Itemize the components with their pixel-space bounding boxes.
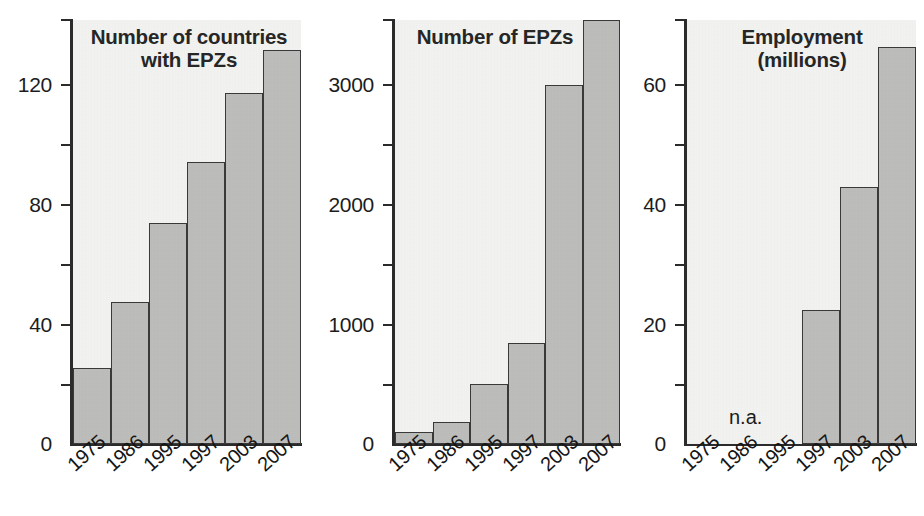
ytick-label-120: 120 — [6, 73, 52, 97]
ytick-label-2000: 2000 — [306, 193, 374, 217]
ytick-label-0: 0 — [6, 432, 52, 456]
bar-1995 — [149, 223, 187, 444]
panel-title: Number of EPZs — [400, 26, 590, 49]
ytick-label-0: 0 — [620, 432, 666, 456]
ytick-label-40: 40 — [620, 193, 666, 217]
bar-1986 — [111, 302, 149, 444]
bar-2007 — [583, 20, 621, 444]
bar-1997 — [508, 343, 546, 444]
panel-epzs: 3000 2000 1000 0 Number of EPZs 1975 198… — [310, 0, 620, 516]
bar-2007 — [878, 47, 916, 444]
plot-area — [73, 20, 301, 444]
panel-title: Employment (millions) — [692, 26, 912, 72]
plot-area — [395, 20, 620, 444]
bar-2003 — [840, 187, 878, 444]
bar-1997 — [187, 162, 225, 444]
ytick-label-60: 60 — [620, 73, 666, 97]
ytick-label-1000: 1000 — [306, 313, 374, 337]
ytick-label-3000: 3000 — [306, 73, 374, 97]
ytick-label-0: 0 — [306, 432, 374, 456]
bar-2003 — [225, 93, 263, 444]
panel-countries: 120 80 40 0 Number of countries with EPZ… — [0, 0, 310, 516]
ytick-label-20: 20 — [620, 313, 666, 337]
bar-2007 — [263, 50, 301, 444]
panel-employment: 60 40 20 0 n.a. Employment (millions) 19… — [620, 0, 924, 516]
bar-2003 — [545, 85, 583, 444]
ytick-label-80: 80 — [6, 193, 52, 217]
panel-title: Number of countries with EPZs — [78, 26, 300, 72]
ytick-label-40: 40 — [6, 313, 52, 337]
plot-area: n.a. — [687, 20, 916, 444]
bar-1997 — [802, 310, 840, 444]
no-data-label: n.a. — [729, 406, 762, 429]
three-panel-bar-chart-figure: 120 80 40 0 Number of countries with EPZ… — [0, 0, 924, 516]
